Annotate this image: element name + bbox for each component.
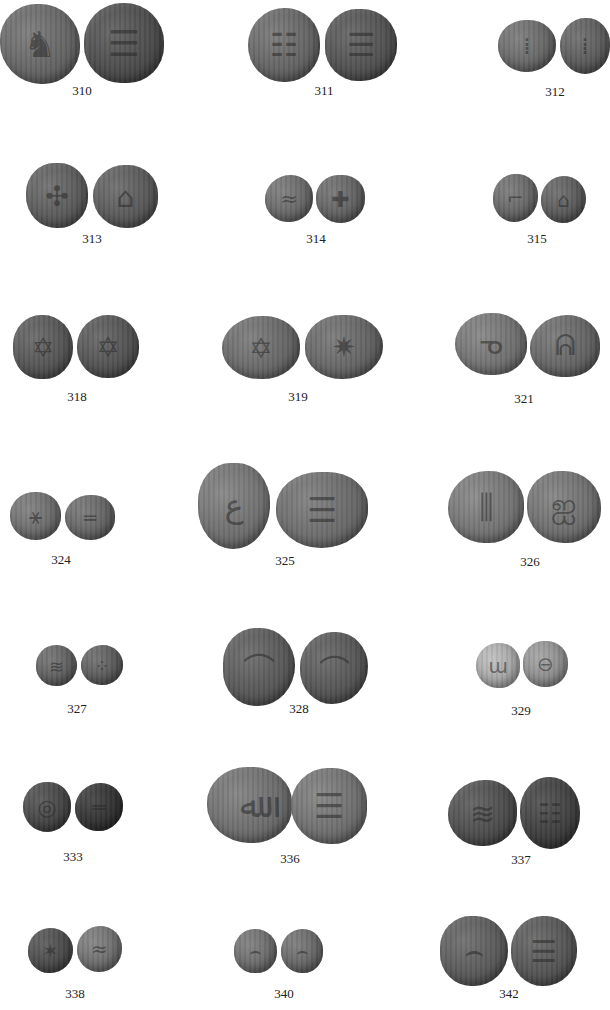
coin-inscription-icon: ⫼ [479,488,494,526]
coin-reverse-image: ═ [75,783,123,831]
coin-obverse-image: ⌐ [493,174,538,222]
coin-inscription-icon: ═ [92,795,105,820]
coin-inscription-icon: ⁞ [581,33,588,59]
coin-catalog-number: 338 [65,986,85,1002]
coin-reverse-image: ⌒ [300,632,368,704]
coin-inscription-icon: ☰ [347,26,376,64]
coin-inscription-icon: ☰ [314,786,344,826]
coin-catalog-number: 311 [314,83,333,99]
coin-inscription-icon: ☷ [270,26,299,64]
coin-inscription-icon: ≈ [280,187,298,211]
coin-reverse-image: ஐ [527,471,601,543]
coin-reverse-image: ☰ [511,916,577,986]
coin-catalog-number: 329 [511,703,531,719]
coin-obverse-image: ⁞ [498,20,556,72]
coin-inscription-icon: ═ [84,506,96,530]
coin-inscription-icon: ☰ [531,934,558,969]
coin-inscription-icon: ﷲ [240,785,260,825]
coin-inscription-icon: ⌢ [296,940,309,963]
coin-catalog-number: 333 [63,849,83,865]
coin-obverse-image: ≋ [448,780,517,846]
coin-inscription-icon: ✶ [42,939,59,963]
coin-inscription-icon: ⌒ [319,646,350,691]
coin-inscription-icon: ✷ [332,330,356,364]
coin-obverse-image: ✣ [26,163,88,228]
coin-obverse-image: ✡ [222,316,300,379]
coin-reverse-image: ⁞ [560,18,610,74]
coin-inscription-icon: ⁘ [94,655,109,676]
coin-catalog-number: 326 [520,554,540,570]
coin-reverse-image: ≈ [77,926,122,972]
coin-obverse-image: ⌢ [234,929,277,973]
coin-obverse-image: ◎ [23,782,71,832]
coin-inscription-icon: ⌐ [507,186,524,210]
coin-inscription-icon: ⌂ [557,188,570,212]
coin-obverse-image: ≋ [36,645,77,686]
coin-catalog-number: 312 [545,84,565,100]
coin-catalog-number: 328 [289,701,309,717]
coin-obverse-image: ✡ [13,315,73,379]
coin-obverse-image: ⚹ [10,492,61,540]
coin-reverse-image: ᕱ [530,315,600,377]
coin-catalog-number: 310 [72,83,92,99]
coin-inscription-icon: ✚ [331,187,349,212]
coin-obverse-image: ⌒ [223,628,295,706]
coin-inscription-icon: ⌢ [249,940,262,963]
coin-obverse-image: ⫼ [448,471,524,543]
coin-reverse-image: ☰ [325,9,397,81]
coin-inscription-icon: ⌂ [117,180,135,213]
coin-obverse-image: ☷ [248,8,320,82]
coin-inscription-icon: ɯ [488,654,507,678]
coin-reverse-image: ⌂ [93,165,158,228]
coin-inscription-icon: ≋ [470,796,495,831]
coin-inscription-icon: ⌢ [464,933,484,970]
coin-catalog-number: 340 [274,986,294,1002]
coin-catalog-number: 337 [511,852,531,868]
coin-inscription-icon: ♞ [24,24,56,65]
coin-reverse-image: ☷ [520,777,580,849]
coin-catalog-number: 319 [288,389,308,405]
coin-reverse-image: ⁘ [81,645,123,685]
coin-inscription-icon: ✡ [96,330,119,363]
coin-inscription-icon: ✡ [249,331,272,364]
coin-reverse-image: ✚ [316,175,365,223]
coin-catalog-number: 313 [82,231,102,247]
coin-inscription-icon: ⁞ [523,33,530,59]
coin-inscription-icon: ⌒ [243,644,275,690]
coin-catalog-number: 314 [306,231,326,247]
coin-obverse-image: ♞ [0,4,80,84]
coin-catalog-number: 327 [67,701,87,717]
coin-obverse-image: ᓀ [455,313,527,375]
coin-catalog-number: 336 [280,851,300,867]
coin-reverse-image: ☰ [84,3,164,83]
coin-reverse-image: ⌂ [541,176,586,223]
coin-catalog-number: 321 [514,391,534,407]
coin-catalog-number: 324 [51,552,71,568]
coin-inscription-icon: ✣ [45,179,68,212]
coin-reverse-image: ═ [65,495,115,540]
coin-obverse-image: ≈ [265,175,313,222]
coin-catalog-number: 315 [527,231,547,247]
coin-catalog-number: 342 [499,986,519,1002]
coin-inscription-icon: ☷ [538,798,562,829]
coin-inscription-icon: ☰ [108,23,140,64]
coin-reverse-image: ⊖ [523,641,568,687]
coin-plate: ♞☰310☷☰311⁞⁞312✣⌂313≈✚314⌐⌂315✡✡318✡✷319… [0,0,610,1010]
coin-reverse-image: ✡ [77,315,139,378]
coin-obverse-image: ✶ [28,928,73,973]
coin-inscription-icon: ✡ [32,332,55,363]
coin-catalog-number: 325 [275,553,295,569]
coin-catalog-number: 318 [67,389,87,405]
coin-inscription-icon: ≋ [49,655,64,676]
coin-inscription-icon: ع [224,487,243,525]
coin-obverse-image: ɯ [476,643,520,688]
coin-inscription-icon: ◎ [37,795,56,820]
coin-inscription-icon: ☰ [307,490,337,530]
coin-obverse-image: ⌢ [440,916,508,986]
coin-reverse-image: ⌢ [281,929,323,973]
coin-inscription-icon: ᕱ [555,329,576,363]
coin-reverse-image: ☰ [291,768,367,844]
coin-obverse-image: ع [198,463,270,549]
coin-reverse-image: ☰ [276,472,368,548]
coin-inscription-icon: ஐ [551,486,577,528]
